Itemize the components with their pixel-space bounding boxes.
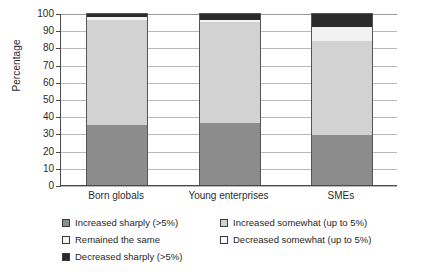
legend-column-right: Increased somewhat (up to 5%)Decreased s… xyxy=(220,215,400,249)
y-axis-tick-label: 80 xyxy=(26,42,54,53)
y-axis-tick-label: 90 xyxy=(26,25,54,36)
y-axis-tick-label: 100 xyxy=(26,8,54,19)
legend-label: Increased sharply (>5%) xyxy=(75,217,178,228)
legend-swatch-icon xyxy=(220,236,228,244)
legend-label: Increased somewhat (up to 5%) xyxy=(233,217,367,228)
bar-segment[interactable] xyxy=(86,20,148,125)
legend-label: Decreased somewhat (up to 5%) xyxy=(233,234,371,245)
bar-group xyxy=(311,14,373,185)
bar-segment[interactable] xyxy=(199,22,261,123)
y-axis-tick-label: 20 xyxy=(26,146,54,157)
stacked-bar[interactable] xyxy=(311,14,373,185)
legend-swatch-icon xyxy=(62,236,70,244)
bar-segment[interactable] xyxy=(86,125,148,185)
bar-segment[interactable] xyxy=(311,27,373,41)
bar-group xyxy=(199,14,261,185)
bar-segment[interactable] xyxy=(311,41,373,136)
legend-item[interactable]: Decreased sharply (>5%) xyxy=(62,249,222,264)
y-axis-tick-label: 70 xyxy=(26,60,54,71)
gridline xyxy=(61,186,397,187)
bar-segment[interactable] xyxy=(311,13,373,27)
legend-item[interactable]: Increased sharply (>5%) xyxy=(62,215,222,230)
legend-item[interactable]: Decreased somewhat (up to 5%) xyxy=(220,232,400,247)
bar-segment[interactable] xyxy=(86,13,148,17)
legend-swatch-icon xyxy=(62,253,70,261)
bar-segment[interactable] xyxy=(199,13,261,20)
x-axis-label: SMEs xyxy=(271,190,411,201)
legend-item[interactable]: Increased somewhat (up to 5%) xyxy=(220,215,400,230)
bar-group xyxy=(86,14,148,185)
bar-segment[interactable] xyxy=(199,123,261,185)
y-axis-tick xyxy=(56,186,61,187)
legend-item[interactable]: Remained the same xyxy=(62,232,222,247)
legend-column-left: Increased sharply (>5%)Remained the same… xyxy=(62,215,222,266)
y-axis-tick-label: 40 xyxy=(26,111,54,122)
legend-swatch-icon xyxy=(220,219,228,227)
bar-segment[interactable] xyxy=(311,135,373,185)
bars-container xyxy=(61,14,397,185)
legend-label: Remained the same xyxy=(75,234,160,245)
plot-area: 0102030405060708090100 xyxy=(60,14,397,186)
y-axis-tick-label: 10 xyxy=(26,163,54,174)
y-axis-tick-label: 60 xyxy=(26,77,54,88)
stacked-bar[interactable] xyxy=(199,14,261,185)
bar-segment[interactable] xyxy=(199,20,261,22)
legend: Increased sharply (>5%)Remained the same… xyxy=(56,215,386,267)
y-axis-tick-label: 30 xyxy=(26,128,54,139)
stacked-bar-chart: Percentage 0102030405060708090100 Born g… xyxy=(0,0,425,279)
legend-label: Decreased sharply (>5%) xyxy=(75,251,182,262)
y-axis-tick-label: 50 xyxy=(26,94,54,105)
stacked-bar[interactable] xyxy=(86,14,148,185)
y-axis-title: Percentage xyxy=(11,6,22,126)
bar-segment[interactable] xyxy=(86,17,148,20)
legend-swatch-icon xyxy=(62,219,70,227)
